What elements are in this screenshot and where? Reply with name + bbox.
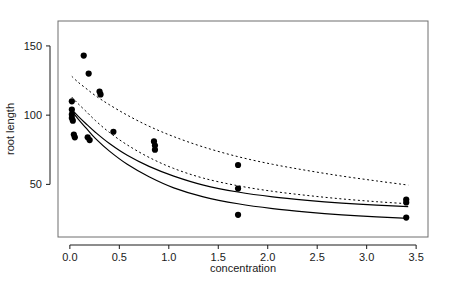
- x-tick-label: 0.5: [112, 251, 127, 263]
- data-point: [97, 91, 103, 97]
- data-point: [152, 147, 158, 153]
- data-point: [235, 162, 241, 168]
- x-tick-label: 2.5: [310, 251, 325, 263]
- curve-upper-confidence-band: [72, 76, 408, 185]
- data-point: [235, 212, 241, 218]
- data-point: [86, 71, 92, 77]
- x-tick-label: 0.0: [62, 251, 77, 263]
- data-point: [70, 118, 76, 124]
- y-tick-label: 150: [24, 40, 42, 52]
- data-point: [403, 199, 409, 205]
- x-tick-label: 1.0: [161, 251, 176, 263]
- data-point: [235, 185, 241, 191]
- data-point: [69, 98, 75, 104]
- x-axis-title: concentration: [210, 262, 276, 274]
- data-point: [87, 137, 93, 143]
- y-axis-title: root length: [4, 103, 16, 155]
- points-group: [69, 53, 410, 221]
- y-tick-label: 50: [30, 178, 42, 190]
- data-point: [110, 129, 116, 135]
- data-point: [81, 53, 87, 59]
- scatter-plot: 0.00.51.01.52.02.53.03.550100150concentr…: [0, 0, 450, 286]
- data-point: [403, 215, 409, 221]
- x-tick-label: 3.5: [408, 251, 423, 263]
- y-tick-label: 100: [24, 109, 42, 121]
- curve-upper-fit-curve: [72, 110, 408, 207]
- data-point: [72, 134, 78, 140]
- plot-container: 0.00.51.01.52.02.53.03.550100150concentr…: [0, 0, 450, 286]
- x-tick-label: 3.0: [359, 251, 374, 263]
- curves-group: [72, 76, 408, 218]
